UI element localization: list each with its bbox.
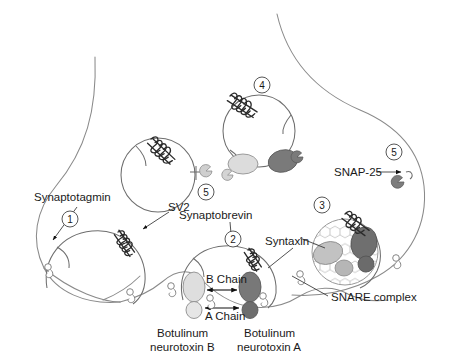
synaptotagmin-icon [393, 255, 401, 269]
label-toxin-b-line2: neurotoxin B [150, 341, 215, 353]
label-toxin-a-line2: neurotoxin A [237, 341, 301, 353]
synaptotagmin-icon [168, 283, 176, 297]
synaptotagmin-icon [207, 295, 215, 309]
snap25-molecule [200, 165, 212, 177]
step-3-number: 3 [319, 200, 325, 211]
botulinum-neurotoxin-b [183, 272, 205, 319]
label-a-chain: A Chain [205, 310, 245, 322]
label-snap25: SNAP-25 [334, 166, 382, 178]
synapse-diagram: 1 2 3 4 5 5 Synaptotagmin SV2 Synaptobre… [0, 0, 450, 363]
snap25-protein-snare [335, 260, 353, 276]
label-synaptotagmin: Synaptotagmin [34, 191, 111, 203]
protein-light-vesicle-4 [228, 154, 258, 174]
step-5-right-number: 5 [391, 147, 397, 158]
synaptotagmin-icon [260, 293, 268, 307]
sv2-coil-vesicle-4 [225, 92, 259, 118]
snap25-free-right [391, 172, 412, 189]
step-5-center-number: 5 [203, 187, 209, 198]
step-1-number: 1 [67, 214, 73, 225]
label-syntaxin: Syntaxin [265, 235, 309, 247]
vesicle-center-free [121, 138, 203, 212]
label-snare-complex: SNARE complex [331, 291, 417, 303]
label-toxin-a-line1: Botulinum [244, 327, 295, 339]
label-b-chain: B Chain [206, 273, 247, 285]
diagram-canvas: 1 2 3 4 5 5 Synaptotagmin SV2 Synaptobre… [0, 0, 450, 363]
step-4-number: 4 [259, 80, 265, 91]
snap25-on-vesicle-4 [291, 151, 303, 163]
step-2-number: 2 [230, 234, 236, 245]
label-toxin-b-line1: Botulinum [157, 327, 208, 339]
label-synaptobrevin: Synaptobrevin [179, 209, 253, 221]
synaptotagmin-icon [127, 289, 135, 303]
snap25-light-vesicle-4 [222, 169, 233, 180]
protein-dark-round-snare [358, 256, 374, 272]
